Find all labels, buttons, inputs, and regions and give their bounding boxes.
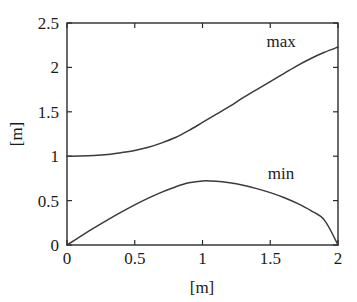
y-axis-title: [m] <box>7 122 26 147</box>
y-tick-label: 1.5 <box>38 103 59 122</box>
series-label-min: min <box>268 164 295 183</box>
y-tick-label: 2.5 <box>38 14 59 33</box>
x-tick-label: 1 <box>198 249 207 268</box>
y-tick-label: 1 <box>51 147 60 166</box>
chart-figure: 00.511.52 00.511.522.5 maxmin [m] [m] <box>0 0 357 302</box>
x-tick-label: 0.5 <box>124 249 145 268</box>
x-tick-label: 0 <box>63 249 72 268</box>
x-tick-label: 1.5 <box>260 249 281 268</box>
line-chart: 00.511.52 00.511.522.5 maxmin [m] [m] <box>0 0 357 302</box>
x-axis-title: [m] <box>190 278 215 297</box>
y-tick-label: 0.5 <box>38 192 59 211</box>
y-tick-label: 0 <box>51 236 60 255</box>
x-tick-label: 2 <box>334 249 343 268</box>
series-label-max: max <box>266 32 296 51</box>
y-tick-label: 2 <box>51 58 60 77</box>
